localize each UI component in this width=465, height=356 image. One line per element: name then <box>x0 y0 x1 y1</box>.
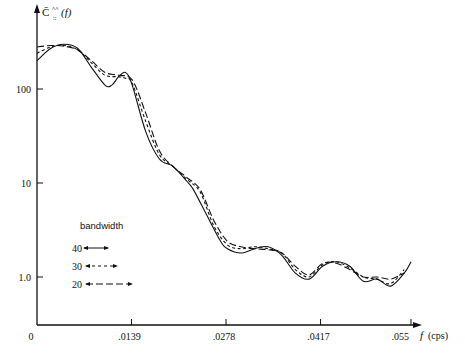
x-tick-label: .0417 <box>307 331 330 342</box>
arrow-left-icon <box>85 264 90 268</box>
svg-text:20: 20 <box>72 279 82 290</box>
x-axis-label: f (cps) <box>420 329 448 342</box>
legend-title: bandwidth <box>80 220 123 231</box>
arrow-right-icon <box>128 282 133 286</box>
y-tick-label: 1.0 <box>19 272 32 283</box>
legend-entry-40: 40 <box>72 243 109 254</box>
arrow-left-icon <box>83 246 88 250</box>
legend-entry-20: 20 <box>72 279 133 290</box>
y-ticks: 100101.0 <box>16 84 43 283</box>
y-tick-label: 10 <box>21 178 31 189</box>
y-label-main: C̄ <box>42 6 49 18</box>
y-axis-label: C̄ ^^ :: (f) <box>42 5 72 21</box>
spectrum-chart: 100101.0 0.0139.0278.0417.055 C̄ ^^ :: (… <box>0 0 465 356</box>
x-axis-arrow-icon <box>413 322 422 328</box>
curve-bandwidth-20 <box>37 45 404 279</box>
arrow-right-icon <box>113 264 118 268</box>
arrow-left-icon <box>85 282 90 286</box>
curves <box>37 44 411 286</box>
x-tick-label: .0139 <box>118 331 141 342</box>
curve-bandwidth-40 <box>37 44 411 286</box>
legend: bandwidth 40 30 20 <box>72 220 133 290</box>
x-tick-label: .055 <box>392 331 410 342</box>
svg-text:40: 40 <box>72 243 82 254</box>
y-label-sup: ^^ <box>52 5 59 13</box>
y-label-sub: :: <box>53 15 57 21</box>
svg-text:30: 30 <box>72 261 82 272</box>
x-label-var: f <box>420 329 425 341</box>
arrow-right-icon <box>104 246 109 250</box>
x-label-unit: (cps) <box>428 330 448 342</box>
y-label-arg: (f) <box>61 6 72 19</box>
y-axis-arrow-icon <box>34 4 40 13</box>
x-ticks: 0.0139.0278.0417.055 <box>29 319 412 342</box>
y-tick-label: 100 <box>16 84 31 95</box>
legend-entry-30: 30 <box>72 261 118 272</box>
x-tick-label: .0278 <box>213 331 236 342</box>
x-tick-label: 0 <box>29 331 34 342</box>
